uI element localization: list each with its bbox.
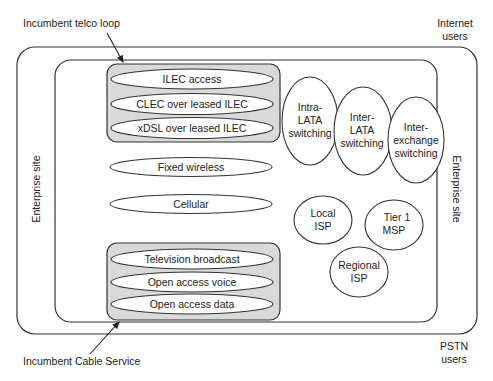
enterprise-site-right-label: Enterprise site [451,155,463,222]
switching-label-line: exchange [393,134,439,146]
wireless-item: Cellular [110,195,272,214]
switching-label-line: LATA [298,114,323,126]
telco-item: xDSL over leased ILEC [111,118,273,139]
provider-label-line: ISP [351,272,368,284]
switching-label-line: Inter- [350,111,375,123]
telco-item-label: CLEC over leased ILEC [136,98,248,110]
provider-label-line: ISP [315,220,332,232]
cable-item-label: Open access voice [148,276,237,288]
switching-label-line: Intra- [298,101,323,113]
provider-node: Local ISP [294,196,352,244]
switching-label-line: switching [340,137,383,149]
provider-label-line: Local [310,207,335,219]
provider-node: Regional ISP [330,247,388,297]
telco-item-label: xDSL over leased ILEC [138,122,247,134]
access-network-diagram: ILEC access CLEC over leased ILEC xDSL o… [0,0,493,381]
internet-users-label-line: users [442,30,468,42]
provider-label-line: Tier 1 [384,211,411,223]
telco-item: ILEC access [111,69,273,89]
switching-node: Inter- exchange switching [388,97,444,183]
cable-item: Television broadcast [111,249,273,269]
wireless-item-label: Fixed wireless [158,161,225,173]
switching-node: Inter- LATA switching [334,87,392,175]
internet-users-label-line: Internet [437,17,473,29]
wireless-item-label: Cellular [173,198,209,210]
switching-label-line: switching [394,147,437,159]
provider-node: Tier 1 MSP [365,200,423,250]
telco-item: CLEC over leased ILEC [111,94,273,115]
telco-loop-label: Incumbent telco loop [23,17,120,29]
switching-label-line: LATA [350,124,375,136]
enterprise-site-left-label: Enterprise site [30,155,42,222]
cable-item-label: Open access data [150,298,235,310]
provider-label-line: MSP [383,224,406,236]
telco-item-label: ILEC access [163,73,222,85]
wireless-item: Fixed wireless [110,158,272,177]
switching-label-line: Inter- [404,121,429,133]
switching-label-line: switching [288,127,331,139]
pstn-users-label-line: users [441,353,467,365]
cable-item: Open access data [111,294,273,314]
provider-label-line: Regional [338,259,379,271]
cable-service-label: Incumbent Cable Service [23,355,140,367]
pstn-users-label-line: PSTN [440,340,468,352]
cable-item-label: Television broadcast [144,253,239,265]
switching-node: Intra- LATA switching [282,77,338,165]
cable-item: Open access voice [111,272,273,292]
